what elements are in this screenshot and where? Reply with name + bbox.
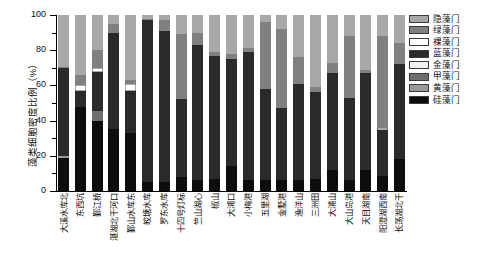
x-axis-tick-label: 大浦口 [227,193,235,217]
bar-segment [176,15,187,34]
legend-item[interactable]: 黄藻门 [409,83,483,95]
plot-area [57,15,406,191]
bar-segment [92,121,103,191]
bar-segment [394,64,405,159]
bar-segment [108,33,119,130]
y-tick-major [50,85,56,86]
bar-stack[interactable] [260,15,271,191]
legend-item[interactable]: 绿藻门 [409,25,483,37]
bar-segment [192,15,203,33]
x-label-slot: 大溪水库北 [58,193,69,273]
y-tick-label: 20 [16,151,46,160]
x-axis-tick-label: 十四号灯标 [177,193,185,233]
bar-stack[interactable] [276,15,287,191]
bar-stack[interactable] [394,15,405,191]
bar-segment [293,15,304,57]
bar-stack[interactable] [192,15,203,191]
bar-stack[interactable] [176,15,187,191]
legend-item[interactable]: 蓝藻门 [409,48,483,60]
bar-stack[interactable] [226,15,237,191]
bar-segment [276,108,287,180]
bar-segment [394,159,405,191]
x-label-slot: 大山岛港 [344,193,355,273]
x-label-slot: 皎塘水库 [142,193,153,273]
x-axis-labels: 大溪水库北东西坑鄞江桥湛湖北干河口鄞山水库东皎塘水库罗东水库十四号灯标竺山湖心椒… [57,193,406,273]
bar-segment [394,43,405,64]
bar-segment [360,170,371,191]
legend-item[interactable]: 金藻门 [409,59,483,71]
bar-segment [75,75,86,86]
bar-stack[interactable] [344,15,355,191]
bar-segment [92,111,103,122]
x-label-slot: 金墅港 [276,193,287,273]
bar-segment [192,180,203,191]
legend-item[interactable]: 硅藻门 [409,94,483,106]
y-tick-minor [52,173,56,174]
x-axis-tick-label: 五里湖 [261,193,269,217]
legend-label: 绿藻门 [433,26,460,35]
y-tick-minor [52,33,56,34]
bar-segment [125,15,136,80]
bar-segment [394,15,405,43]
bar-segment [125,91,136,133]
legend: 隐藻门绿藻门裸藻门蓝藻门金藻门甲藻门黄藻门硅藻门 [409,13,483,106]
bar-segment [75,107,86,191]
bar-segment [377,130,388,176]
y-tick-major [50,15,56,16]
bar-stack[interactable] [360,15,371,191]
bar-stack[interactable] [243,15,254,191]
bar-segment [310,179,321,191]
bar-segment [192,45,203,181]
bar-segment [360,15,371,70]
legend-item[interactable]: 隐藻门 [409,13,483,25]
bar-segment [327,63,338,74]
bar-stack[interactable] [125,15,136,191]
legend-label: 硅藻门 [433,96,460,105]
bar-segment [159,20,170,31]
x-axis-tick-label: 竺山湖心 [194,193,202,225]
bar-segment [243,180,254,191]
legend-label: 隐藻门 [433,15,460,24]
x-label-slot: 大浦口 [226,193,237,273]
x-label-slot: 阳澄湖西南 [377,193,388,273]
bar-segment [209,15,220,52]
bar-segment [159,182,170,191]
legend-item[interactable]: 裸藻门 [409,36,483,48]
bar-segment [176,177,187,191]
bar-stack[interactable] [75,15,86,191]
legend-label: 甲藻门 [433,72,460,81]
x-label-slot: 渔洋山 [293,193,304,273]
bar-segment [344,15,355,36]
bar-stack[interactable] [108,15,119,191]
y-tick-minor [52,103,56,104]
x-label-slot: 椒山 [209,193,220,273]
x-axis-tick-label: 渔洋山 [295,193,303,217]
bar-segment [108,15,119,24]
bar-stack[interactable] [293,15,304,191]
bar-segment [327,15,338,63]
bar-stack[interactable] [327,15,338,191]
bar-stack[interactable] [377,15,388,191]
bar-segment [176,34,187,99]
bar-stack[interactable] [159,15,170,191]
legend-swatch [409,61,429,69]
x-label-slot: 天目湖南 [360,193,371,273]
bar-stack[interactable] [92,15,103,191]
bar-stack[interactable] [310,15,321,191]
legend-swatch [409,96,429,104]
legend-item[interactable]: 甲藻门 [409,71,483,83]
bar-segment [377,15,388,36]
bar-segment [260,180,271,191]
bar-segment [209,56,220,179]
bar-stack[interactable] [58,15,69,191]
bar-segment [92,72,103,111]
bar-stack[interactable] [142,15,153,191]
bar-stack[interactable] [209,15,220,191]
x-label-slot: 长荡湖北干 [394,193,405,273]
y-tick-label: 100 [16,10,46,19]
bar-segment [75,15,86,75]
x-axis-tick-label: 大山岛港 [345,193,353,225]
bar-segment [293,180,304,191]
y-tick-label: 80 [16,45,46,54]
bar-segment [92,50,103,68]
